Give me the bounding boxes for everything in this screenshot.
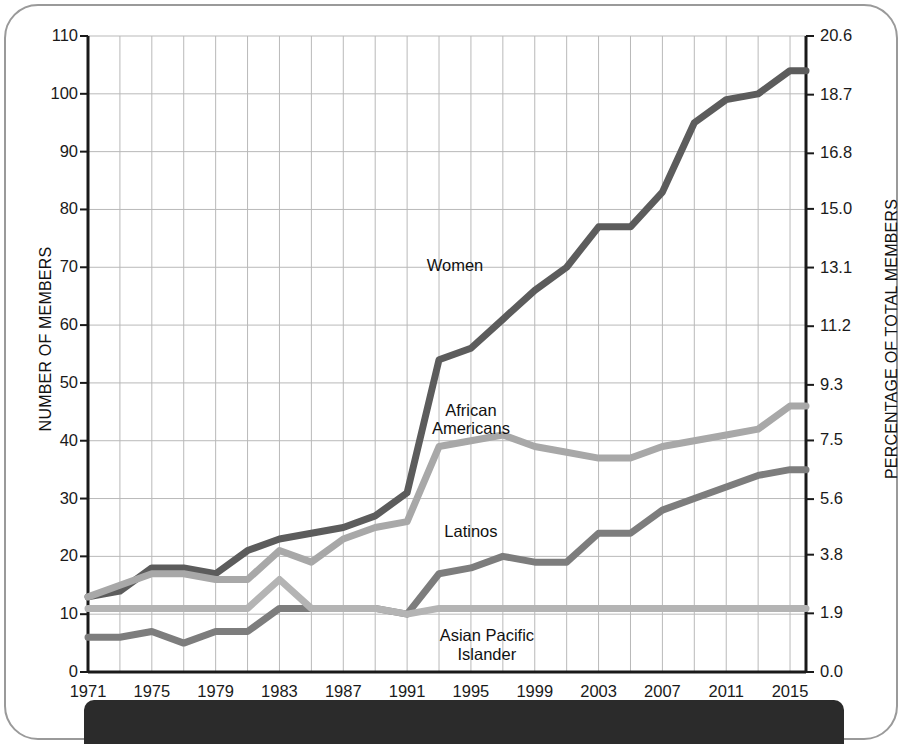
y-axis-left-tick-label: 80 bbox=[14, 199, 78, 218]
y-axis-right-title: PERCENTAGE OF TOTAL MEMBERS bbox=[883, 189, 901, 489]
y-axis-left-tick-label: 70 bbox=[14, 257, 78, 276]
y-axis-left-tick-label: 60 bbox=[14, 315, 78, 334]
y-axis-right-tick-label: 13.1 bbox=[820, 258, 884, 277]
x-axis-tick-label: 1987 bbox=[309, 682, 377, 701]
series-label-line: Islander bbox=[417, 645, 557, 663]
x-axis-tick-label: 1995 bbox=[437, 682, 505, 701]
y-axis-right-tick-label: 9.3 bbox=[820, 375, 884, 394]
y-axis-right-tick-label: 7.5 bbox=[820, 430, 884, 449]
x-axis-tick-label: 1975 bbox=[118, 682, 186, 701]
y-axis-left-tick-label: 30 bbox=[14, 489, 78, 508]
y-axis-right-tick-label: 15.0 bbox=[820, 199, 884, 218]
series-label-african-americans: AfricanAmericans bbox=[401, 401, 541, 438]
y-axis-left-tick-label: 90 bbox=[14, 142, 78, 161]
y-axis-right-tick-label: 16.8 bbox=[820, 143, 884, 162]
y-axis-left-tick-label: 40 bbox=[14, 431, 78, 450]
footer-bar bbox=[84, 700, 844, 744]
x-axis-tick-label: 1983 bbox=[245, 682, 313, 701]
x-axis-tick-label: 1971 bbox=[54, 682, 122, 701]
series-label-line: African bbox=[401, 401, 541, 419]
x-axis-tick-label: 2007 bbox=[628, 682, 696, 701]
x-axis-tick-label: 1991 bbox=[373, 682, 441, 701]
y-axis-left-tick-label: 20 bbox=[14, 546, 78, 565]
y-axis-right-tick-label: 11.2 bbox=[820, 316, 884, 335]
series-label-line: Asian Pacific bbox=[417, 626, 557, 644]
y-axis-right-tick-label: 0.0 bbox=[820, 662, 884, 681]
y-axis-right-tick-label: 5.6 bbox=[820, 489, 884, 508]
y-axis-left-tick-label: 10 bbox=[14, 604, 78, 623]
series-label-line: Americans bbox=[401, 419, 541, 437]
y-axis-right-tick-label: 1.9 bbox=[820, 603, 884, 622]
y-axis-left-tick-label: 50 bbox=[14, 373, 78, 392]
y-axis-left-tick-label: 0 bbox=[14, 662, 78, 681]
y-axis-right-tick-label: 18.7 bbox=[820, 85, 884, 104]
x-axis-tick-label: 2011 bbox=[692, 682, 760, 701]
y-axis-left-tick-label: 100 bbox=[14, 84, 78, 103]
series-label-women: Women bbox=[385, 256, 525, 274]
x-axis-tick-label: 1979 bbox=[182, 682, 250, 701]
series-label-asian-pacific-islander: Asian PacificIslander bbox=[417, 626, 557, 663]
x-axis-tick-label: 2003 bbox=[565, 682, 633, 701]
line-chart: NUMBER OF MEMBERS PERCENTAGE OF TOTAL ME… bbox=[0, 0, 904, 744]
y-axis-left-tick-label: 110 bbox=[14, 26, 78, 45]
y-axis-right-tick-label: 3.8 bbox=[820, 545, 884, 564]
series-line-women bbox=[88, 71, 806, 597]
y-axis-right-tick-label: 20.6 bbox=[820, 26, 884, 45]
series-label-latinos: Latinos bbox=[401, 522, 541, 540]
x-axis-tick-label: 2015 bbox=[756, 682, 824, 701]
x-axis-tick-label: 1999 bbox=[501, 682, 569, 701]
series-line-asian-pacific-islander bbox=[88, 579, 806, 614]
